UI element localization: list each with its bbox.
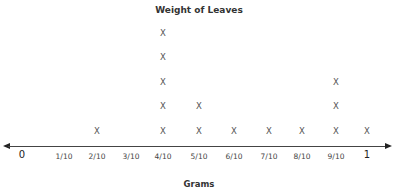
chart-title: Weight of Leaves [0, 5, 398, 15]
tick-label: 3/10 [123, 152, 140, 161]
x-mark: X [160, 101, 166, 111]
x-mark: X [160, 126, 166, 136]
tick-label: 8/10 [294, 152, 311, 161]
x-mark: X [299, 126, 305, 136]
tick-label: 6/10 [226, 152, 243, 161]
x-mark: X [160, 28, 166, 38]
x-mark: X [333, 77, 339, 87]
tick-label: 9/10 [328, 152, 345, 161]
x-mark: X [196, 101, 202, 111]
x-mark: X [333, 126, 339, 136]
x-mark: X [333, 101, 339, 111]
x-mark: X [266, 126, 272, 136]
x-mark: X [364, 126, 370, 136]
tick-label: 1/10 [56, 152, 73, 161]
tick-label: 7/10 [261, 152, 278, 161]
x-mark: X [160, 77, 166, 87]
tick-label: 5/10 [191, 152, 208, 161]
x-mark: X [94, 126, 100, 136]
x-axis-label: Grams [0, 179, 398, 189]
tick-label: 4/10 [155, 152, 172, 161]
tick-label: 1 [364, 149, 370, 160]
x-mark: X [196, 126, 202, 136]
tick-label: 0 [19, 149, 25, 160]
axis-arrow-right-icon [385, 143, 392, 149]
number-line-axis [8, 146, 388, 147]
x-mark: X [160, 52, 166, 62]
tick-label: 2/10 [89, 152, 106, 161]
x-mark: X [231, 126, 237, 136]
